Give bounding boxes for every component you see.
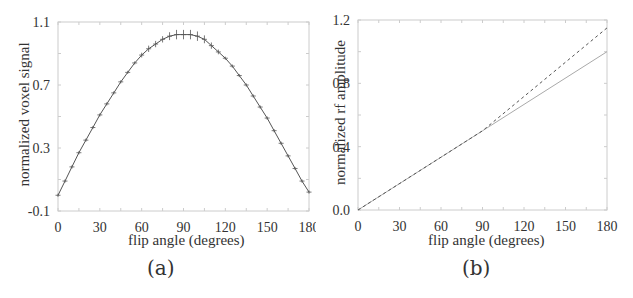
chart-b-y-tick-label: 0.0 bbox=[333, 203, 351, 218]
chart-a-y-tick-label: -0.1 bbox=[28, 204, 50, 219]
chart-a-x-tick-label: 30 bbox=[93, 220, 107, 235]
chart-a-y-tick-label: 1.1 bbox=[33, 15, 51, 30]
chart-a-y-tick-label: 0.7 bbox=[33, 78, 51, 93]
chart-b-series-dashed-line bbox=[358, 28, 607, 210]
chart-b-axes-frame bbox=[358, 20, 607, 210]
chart-b-x-tick-label: 180 bbox=[597, 219, 618, 234]
chart-b-x-tick-label: 150 bbox=[555, 219, 576, 234]
chart-b-y-tick-label: 1.2 bbox=[333, 13, 351, 28]
chart-a-axes-frame bbox=[58, 22, 309, 211]
chart-a-x-tick-label: 150 bbox=[257, 220, 278, 235]
chart-b-y-axis-label: normalized rf amplitude bbox=[332, 33, 349, 193]
chart-a-x-tick-label: 0 bbox=[55, 220, 62, 235]
chart-a-y-axis-label: normalized voxel signal bbox=[16, 35, 33, 195]
panel-b: 03060901201501800.00.40.81.2 normalized … bbox=[316, 0, 633, 298]
chart-a-caption: (a) bbox=[147, 256, 175, 280]
chart-a-x-tick-label: 180 bbox=[299, 220, 317, 235]
chart-a-x-axis-label: flip angle (degrees) bbox=[128, 232, 245, 249]
chart-b-x-tick-label: 30 bbox=[393, 219, 407, 234]
chart-a-plot: 0306090120150180-0.10.30.71.1 bbox=[0, 0, 316, 298]
chart-b-plot: 03060901201501800.00.40.81.2 bbox=[316, 0, 633, 298]
chart-a-y-tick-label: 0.3 bbox=[33, 141, 51, 156]
chart-b-caption: (b) bbox=[462, 256, 490, 280]
chart-a-series-solid-line bbox=[58, 35, 309, 196]
chart-b-x-tick-label: 0 bbox=[355, 219, 362, 234]
panel-a: 0306090120150180-0.10.30.71.1 normalized… bbox=[0, 0, 316, 298]
chart-b-x-axis-label: flip angle (degrees) bbox=[428, 232, 545, 249]
